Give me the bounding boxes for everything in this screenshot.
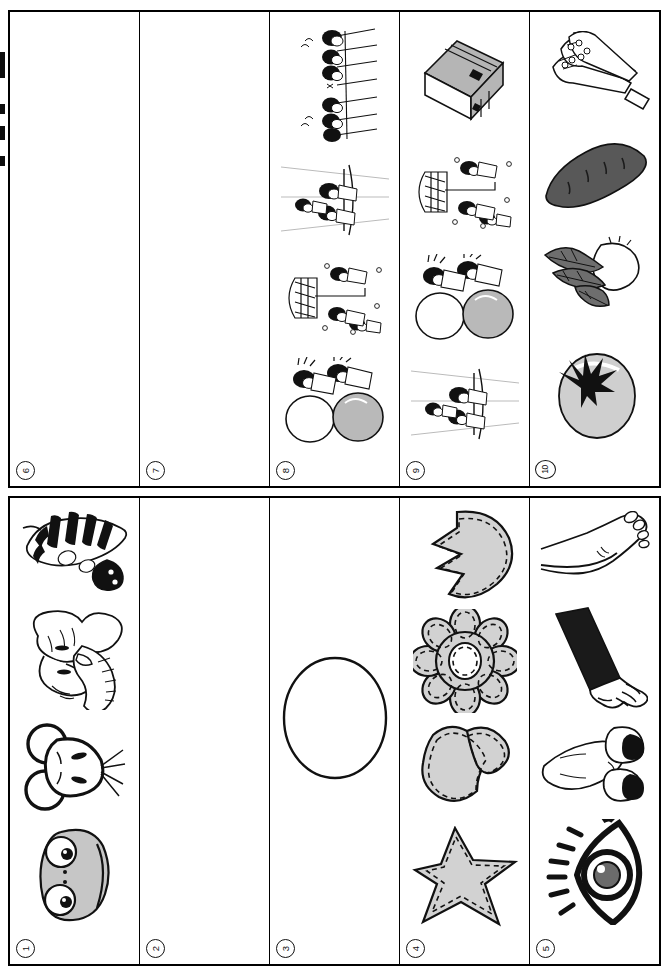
- children-net-throw-icon: [411, 152, 519, 232]
- star-felt-icon: [411, 826, 519, 928]
- cell-9-3[interactable]: [400, 254, 529, 342]
- foot-icon: [539, 511, 651, 593]
- column-index-9: 9: [406, 461, 425, 480]
- cell-5-3[interactable]: [530, 724, 659, 806]
- children-jump-rope-icon: [411, 365, 519, 443]
- worksheet-page: 6 7: [0, 0, 663, 974]
- column-10[interactable]: 10: [530, 12, 659, 486]
- cell-4-3[interactable]: [400, 721, 529, 817]
- children-net-throw-icon: [281, 258, 389, 338]
- cell-10-1[interactable]: [530, 31, 659, 113]
- frog-face-icon: [27, 826, 123, 926]
- cell-1-3[interactable]: [10, 722, 139, 814]
- cell-4-2[interactable]: [400, 609, 529, 713]
- column-index-5: 5: [536, 939, 555, 958]
- cell-8-2[interactable]: [270, 161, 399, 239]
- scan-edge-strip: [0, 0, 5, 974]
- cell-8-4[interactable]: [270, 357, 399, 445]
- scan-edge-mark: [0, 126, 5, 140]
- cell-8-3[interactable]: [270, 258, 399, 338]
- column-index-6: 6: [16, 461, 35, 480]
- section-bottom: 1 2 3: [8, 496, 661, 966]
- nose-icon: [540, 724, 650, 806]
- column-index-4: 4: [406, 939, 425, 958]
- column-5[interactable]: 5: [530, 498, 659, 964]
- children-big-ball-icon: [282, 357, 388, 445]
- cell-9-1[interactable]: [400, 29, 529, 129]
- cell-5-4[interactable]: [530, 819, 659, 925]
- pacman-heart-felt-icon: [413, 508, 517, 600]
- scan-edge-mark: [0, 104, 5, 114]
- column-7[interactable]: 7: [140, 12, 270, 486]
- tomato-icon: [547, 346, 643, 442]
- cell-10-2[interactable]: [530, 138, 659, 210]
- cell-9-4[interactable]: [400, 365, 529, 443]
- cell-4-4[interactable]: [400, 826, 529, 928]
- column-index-3: 3: [276, 939, 295, 958]
- column-index-10: 10: [535, 460, 556, 479]
- elephant-head-icon: [22, 610, 128, 710]
- cell-5-2[interactable]: [530, 606, 659, 710]
- cell-4-1[interactable]: [400, 508, 529, 600]
- children-climbing-net-icon: [287, 27, 383, 142]
- children-big-ball-icon: [412, 254, 518, 342]
- cell-8-1[interactable]: [270, 27, 399, 142]
- column-index-1: 1: [16, 939, 35, 958]
- column-1[interactable]: 1: [10, 498, 140, 964]
- eye-icon: [541, 819, 649, 925]
- column-6[interactable]: 6: [10, 12, 140, 486]
- cardboard-box-icon: [415, 29, 515, 129]
- cell-1-4[interactable]: [10, 826, 139, 926]
- column-8[interactable]: 8: [270, 12, 400, 486]
- section-top: 6 7: [8, 10, 661, 488]
- arm-hand-icon: [542, 606, 648, 710]
- cell-3-1[interactable]: [270, 655, 399, 781]
- circle-outline-icon: [280, 655, 390, 781]
- column-3[interactable]: 3: [270, 498, 400, 964]
- mouse-head-icon: [23, 722, 127, 814]
- cell-1-1[interactable]: [10, 510, 139, 598]
- cell-5-1[interactable]: [530, 511, 659, 593]
- cell-10-3[interactable]: [530, 235, 659, 321]
- column-2[interactable]: 2: [140, 498, 270, 964]
- children-jump-rope-icon: [281, 161, 389, 239]
- column-index-7: 7: [146, 461, 165, 480]
- scan-edge-mark: [0, 156, 5, 166]
- column-index-2: 2: [146, 939, 165, 958]
- column-4[interactable]: 4: [400, 498, 530, 964]
- cell-10-4[interactable]: [530, 346, 659, 442]
- asparagus-icon: [539, 31, 651, 113]
- zebra-head-icon: [21, 510, 129, 598]
- sweet-potato-icon: [540, 138, 650, 210]
- cell-1-2[interactable]: [10, 610, 139, 710]
- scan-edge-mark: [0, 52, 5, 78]
- turnip-with-greens-icon: [539, 235, 651, 321]
- column-9[interactable]: 9: [400, 12, 530, 486]
- heart-felt-icon: [413, 721, 517, 817]
- cell-9-2[interactable]: [400, 152, 529, 232]
- column-index-8: 8: [276, 461, 295, 480]
- flower-felt-icon: [413, 609, 517, 713]
